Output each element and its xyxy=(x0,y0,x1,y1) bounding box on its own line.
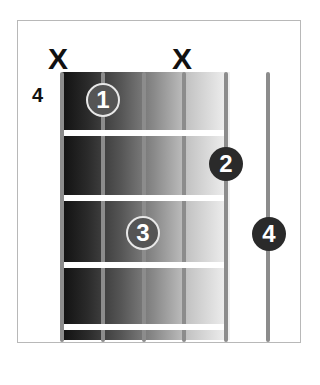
muted-string-4-marker: X xyxy=(172,44,192,74)
finger-3-dot: 3 xyxy=(126,216,160,250)
fret-line-2 xyxy=(64,195,224,201)
finger-4-dot: 4 xyxy=(252,217,286,251)
string-4 xyxy=(182,72,186,342)
string-5 xyxy=(224,72,228,342)
string-1 xyxy=(60,72,64,342)
string-3 xyxy=(142,72,146,342)
string-6 xyxy=(266,72,270,342)
finger-2-dot: 2 xyxy=(209,147,243,181)
start-fret-label: 4 xyxy=(32,84,43,107)
fretboard-gradient xyxy=(62,72,230,340)
fret-line-4 xyxy=(64,324,224,330)
fret-line-1 xyxy=(64,130,224,136)
fret-line-3 xyxy=(64,262,224,268)
muted-string-1-marker: X xyxy=(48,44,68,74)
finger-1-dot: 1 xyxy=(86,83,120,117)
